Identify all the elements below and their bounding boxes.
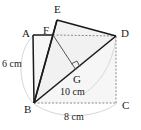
vertex-label-d: D <box>121 28 129 39</box>
vertex-label-b: B <box>24 104 31 115</box>
vertex-label-g: G <box>73 74 81 85</box>
vertex-label-a: A <box>22 28 30 39</box>
dimension-label-side-bc: 8 cm <box>64 112 84 122</box>
segment-ab <box>33 35 34 103</box>
vertex-label-f: F <box>43 25 49 36</box>
dimension-label-side-ab: 6 cm <box>2 59 22 69</box>
arc-left <box>21 36 33 103</box>
vertex-label-c: C <box>122 100 129 111</box>
vertex-label-e: E <box>54 4 61 15</box>
dimension-label-diagonal-bd: 10 cm <box>60 87 85 97</box>
